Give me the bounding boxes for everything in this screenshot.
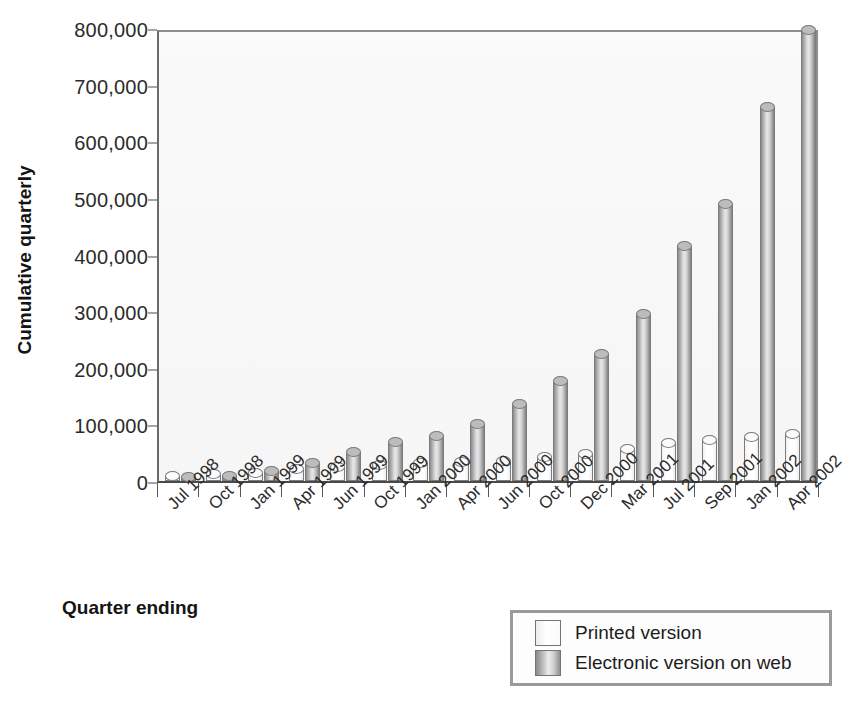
y-axis-tick-label: 300,000 bbox=[74, 302, 148, 325]
bar-group bbox=[159, 32, 200, 481]
bar-group bbox=[324, 32, 365, 481]
y-axis-tick-mark bbox=[148, 313, 157, 314]
bar-group bbox=[490, 32, 531, 481]
bar-cap bbox=[718, 199, 733, 209]
bar-group bbox=[572, 32, 613, 481]
bar-group bbox=[696, 32, 737, 481]
bar-group bbox=[655, 32, 696, 481]
legend-item-printed: Printed version bbox=[535, 619, 702, 647]
bar-cap bbox=[785, 429, 800, 439]
y-axis-tick-mark bbox=[148, 30, 157, 31]
bar-cap bbox=[594, 349, 609, 359]
bar-cap bbox=[636, 309, 651, 319]
y-axis-tick-mark bbox=[148, 143, 157, 144]
y-axis-tick-label: 200,000 bbox=[74, 358, 148, 381]
bar-body bbox=[718, 204, 733, 481]
bar-group bbox=[407, 32, 448, 481]
bar-group bbox=[531, 32, 572, 481]
bar-body bbox=[760, 107, 775, 481]
bar-group bbox=[200, 32, 241, 481]
x-axis-label: Quarter ending bbox=[62, 597, 198, 619]
bar-cap bbox=[744, 432, 759, 442]
bar-group bbox=[779, 32, 820, 481]
bar-cap bbox=[470, 419, 485, 429]
y-axis-tick-label: 400,000 bbox=[74, 245, 148, 268]
y-axis-tick-label: 0 bbox=[137, 472, 148, 495]
legend-label-printed: Printed version bbox=[575, 622, 702, 644]
bar-group bbox=[613, 32, 654, 481]
y-axis-tick-mark bbox=[148, 256, 157, 257]
legend-swatch-web-icon bbox=[535, 650, 561, 676]
chart-figure: Cumulative quarterly 0100,000200,000300,… bbox=[0, 0, 857, 727]
y-axis-tick-mark bbox=[148, 369, 157, 370]
bar-group bbox=[366, 32, 407, 481]
bar-cap bbox=[677, 241, 692, 251]
bar-web bbox=[760, 102, 775, 481]
bar-web bbox=[677, 241, 692, 481]
y-axis-tick-label: 800,000 bbox=[74, 19, 148, 42]
bar-group bbox=[737, 32, 778, 481]
bar-group bbox=[283, 32, 324, 481]
plot-area bbox=[157, 30, 818, 483]
legend-swatch-printed-icon bbox=[535, 620, 561, 646]
chart-legend: Printed version Electronic version on we… bbox=[510, 610, 832, 686]
legend-item-web: Electronic version on web bbox=[535, 649, 792, 677]
bar-group bbox=[242, 32, 283, 481]
bar-cap bbox=[512, 399, 527, 409]
bar-cap bbox=[661, 438, 676, 448]
bar-cap bbox=[388, 437, 403, 447]
legend-label-web: Electronic version on web bbox=[575, 652, 792, 674]
y-axis-tick-mark bbox=[148, 426, 157, 427]
bar-web bbox=[594, 349, 609, 481]
bar-web bbox=[801, 25, 816, 481]
bar-cap bbox=[801, 25, 816, 35]
bar-printed bbox=[165, 471, 180, 481]
x-axis-tick-mark bbox=[157, 483, 158, 497]
y-axis-tick-label: 500,000 bbox=[74, 188, 148, 211]
bar-body bbox=[636, 314, 651, 481]
y-axis-tick-label: 600,000 bbox=[74, 132, 148, 155]
bar-group bbox=[448, 32, 489, 481]
y-axis-tick-label: 700,000 bbox=[74, 75, 148, 98]
y-axis-tick-mark bbox=[148, 199, 157, 200]
bar-body bbox=[677, 246, 692, 481]
bar-body bbox=[801, 30, 816, 481]
bars-container bbox=[159, 32, 816, 481]
bar-cap bbox=[760, 102, 775, 112]
y-axis-tick-mark bbox=[148, 483, 157, 484]
bar-body bbox=[594, 354, 609, 481]
bar-web bbox=[636, 309, 651, 481]
bar-cap bbox=[429, 431, 444, 441]
y-axis-tick-label: 100,000 bbox=[74, 415, 148, 438]
y-axis-tick-mark bbox=[148, 86, 157, 87]
bar-cap bbox=[553, 376, 568, 386]
bar-web bbox=[718, 199, 733, 481]
